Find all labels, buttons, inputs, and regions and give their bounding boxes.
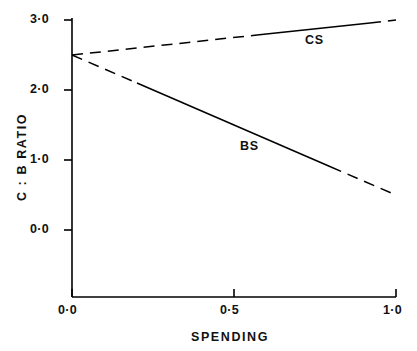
series-cs-dashed-right xyxy=(370,20,396,23)
y-tick-label-3: 3·0 xyxy=(30,12,49,26)
series-label-bs: BS xyxy=(240,139,259,153)
y-tick-label-2: 2·0 xyxy=(30,82,49,96)
y-tick-label-0: 0·0 xyxy=(30,222,49,236)
y-tick-label-1: 1·0 xyxy=(30,152,49,166)
series-label-cs: CS xyxy=(305,33,324,47)
x-axis-title: SPENDING xyxy=(150,330,310,344)
series-bs-dashed-left xyxy=(72,55,137,83)
x-tick-label-1: 1·0 xyxy=(383,303,402,317)
chart-figure: 3·0 2·0 1·0 0·0 0·0 0·5 1·0 C : B RATIO … xyxy=(0,0,417,351)
y-axis-title: C : B RATIO xyxy=(15,97,29,217)
series-bs-dashed-right xyxy=(331,167,396,195)
x-tick-label-0-5: 0·5 xyxy=(220,303,239,317)
series-bs-solid xyxy=(137,83,331,167)
line-chart-plot xyxy=(0,0,417,351)
series-cs-dashed-left xyxy=(72,35,257,55)
x-tick-label-0: 0·0 xyxy=(58,303,77,317)
